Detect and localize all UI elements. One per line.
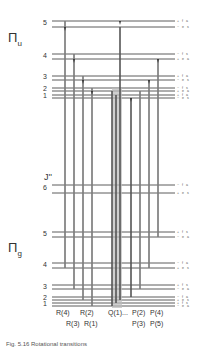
branch-q1: Q(1)... (108, 309, 128, 316)
parity-label: − e s (177, 78, 190, 82)
parity-label: − f a (177, 261, 189, 265)
parity-label: − e s (177, 25, 190, 29)
upper-j-3: 3 (43, 73, 47, 80)
branch-p5: P(5) (150, 320, 163, 327)
upper-j-2: 2 (43, 85, 47, 92)
upper-j-4: 4 (43, 52, 47, 59)
upper-state-label: Πu (8, 30, 22, 48)
parity-label: − f s (177, 52, 189, 56)
upper-j-5: 5 (43, 19, 47, 26)
upper-j-1: 1 (43, 92, 47, 99)
parity-label: − e s (177, 96, 190, 100)
lower-j-3: 3 (43, 283, 47, 290)
parity-label: − e a (177, 287, 190, 291)
parity-label: + e a (177, 57, 190, 61)
lower-j-6: 6 (43, 184, 47, 191)
parity-label: + f s (177, 230, 189, 234)
parity-label: + e s (177, 266, 190, 270)
branch-p3: P(3) (132, 320, 145, 327)
parity-label: − e a (177, 304, 190, 308)
branch-r1: R(1) (84, 320, 98, 327)
parity-label: − e a (177, 235, 190, 239)
branch-p4: P(4) (150, 309, 163, 316)
figure-caption: Fig. 5.16 Rotational transitions (6, 341, 87, 347)
j-axis-label: J'' (44, 172, 52, 182)
parity-label: + f a (177, 19, 189, 23)
branch-r2: R(2) (80, 309, 94, 316)
lower-j-4: 4 (43, 261, 47, 268)
arrow-heads (64, 21, 159, 102)
branch-p2: P(2) (132, 309, 145, 316)
lower-j-5: 5 (43, 230, 47, 237)
parity-label: − f a (177, 183, 189, 187)
energy-level-diagram (0, 0, 203, 349)
lower-state-label: Πg (8, 240, 22, 258)
branch-r4: R(4) (56, 309, 70, 316)
branch-r3: R(3) (66, 320, 80, 327)
upper-levels (52, 21, 175, 98)
parity-label: + e s (177, 191, 190, 195)
lower-j-1: 1 (43, 300, 47, 307)
